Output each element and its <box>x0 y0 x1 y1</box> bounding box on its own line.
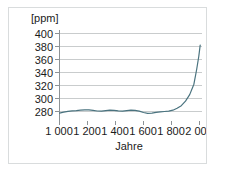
caption-strip <box>8 169 218 179</box>
x-axis-tick-labels: 1 000 1 200 1 400 1 600 1 800 2 000 <box>45 125 206 137</box>
x-tick-label: 1 200 <box>73 125 101 137</box>
y-tick-label: 280 <box>35 106 53 118</box>
gridlines <box>59 34 202 112</box>
co2-line-chart: [ppm] 400 380 360 340 32 <box>9 8 206 163</box>
co2-data-line <box>60 45 201 113</box>
chart-figure: [ppm] 400 380 360 340 32 <box>8 7 207 164</box>
y-tick-label: 360 <box>35 54 53 66</box>
y-tick-label: 400 <box>35 28 53 40</box>
x-tick-label: 1 800 <box>157 125 185 137</box>
y-axis-tickmarks <box>55 34 59 112</box>
x-axis-title: Jahre <box>115 140 143 152</box>
y-axis-unit-label: [ppm] <box>31 12 59 24</box>
y-axis-tick-labels: 400 380 360 340 320 300 280 <box>35 28 53 118</box>
x-tick-label: 2 000 <box>185 125 206 137</box>
x-tick-label: 1 600 <box>129 125 157 137</box>
x-tick-label: 1 000 <box>45 125 73 137</box>
y-tick-label: 320 <box>35 80 53 92</box>
y-tick-label: 380 <box>35 41 53 53</box>
y-tick-label: 340 <box>35 67 53 79</box>
x-tick-label: 1 400 <box>101 125 129 137</box>
y-tick-label: 300 <box>35 93 53 105</box>
